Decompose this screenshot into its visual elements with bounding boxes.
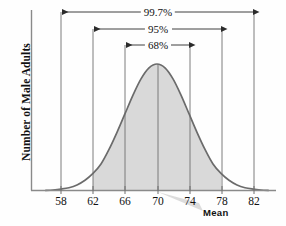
- x-tick-label-62: 62: [80, 195, 106, 207]
- mean-callout-label: Mean: [203, 207, 228, 218]
- bracket-label-95: 95%: [145, 23, 171, 35]
- x-tick-label-78: 78: [209, 195, 235, 207]
- x-tick-label-70: 70: [145, 195, 171, 207]
- x-tick-label-66: 66: [112, 195, 138, 207]
- x-tick-label-82: 82: [241, 195, 267, 207]
- normal-distribution-figure: Number of Male Adults: [0, 0, 286, 226]
- x-tick-label-58: 58: [48, 195, 74, 207]
- bracket-label-99-7: 99.7%: [141, 6, 175, 18]
- bracket-label-68: 68%: [145, 39, 171, 51]
- x-tick-label-74: 74: [177, 195, 203, 207]
- shaded-region: [45, 64, 269, 191]
- chart-canvas: [0, 0, 286, 226]
